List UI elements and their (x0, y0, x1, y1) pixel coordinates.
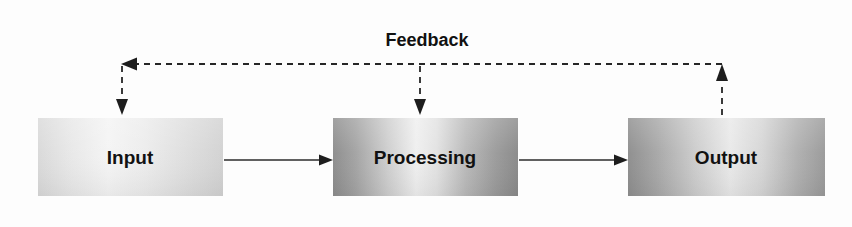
feedback-label: Feedback (385, 30, 469, 50)
arrowhead-up-icon (716, 64, 728, 81)
connector-processing-to-output (519, 155, 628, 166)
diagram-canvas: Input Processing Output (0, 0, 852, 227)
arrowhead-right-icon (614, 155, 628, 166)
arrowhead-right-icon (319, 155, 333, 166)
arrowhead-down-icon (414, 99, 426, 115)
arrowhead-left-icon (121, 58, 137, 71)
feedback-loop: Feedback (116, 30, 728, 115)
arrowhead-down-icon (116, 99, 128, 115)
flow-diagram: Input Processing Output (0, 0, 852, 227)
processing-label: Processing (374, 147, 476, 168)
node-input[interactable]: Input (38, 118, 223, 196)
output-label: Output (695, 147, 758, 168)
input-label: Input (107, 147, 154, 168)
connector-input-to-processing (224, 155, 333, 166)
node-processing[interactable]: Processing (333, 118, 518, 196)
node-output[interactable]: Output (628, 118, 825, 196)
